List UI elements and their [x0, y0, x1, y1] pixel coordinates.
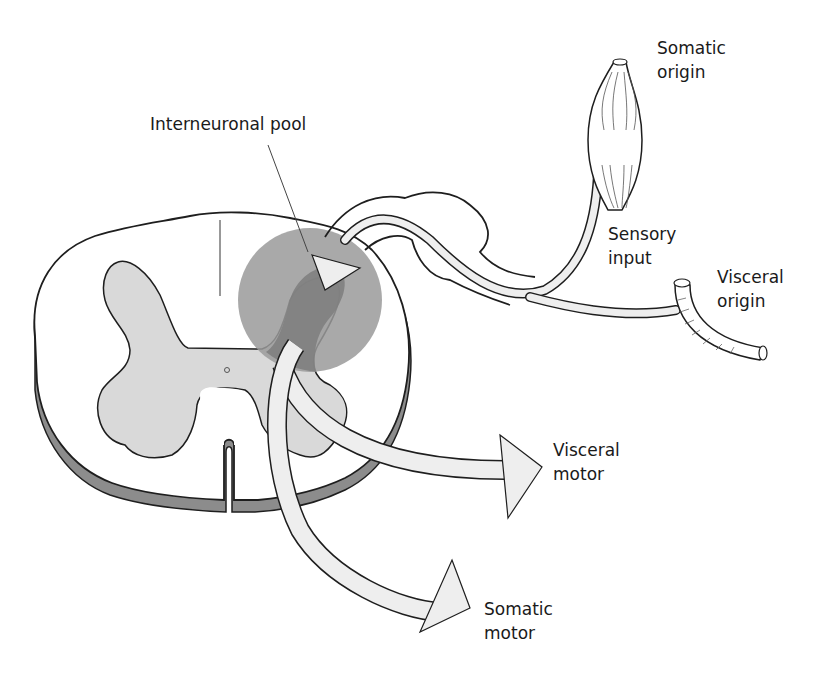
label-line: Visceral	[553, 438, 620, 462]
somatic-origin-muscle	[588, 59, 642, 210]
label-line: motor	[553, 462, 620, 486]
diagram-graphics	[0, 0, 821, 677]
label-line: motor	[484, 621, 553, 645]
label-line: Somatic	[484, 597, 553, 621]
label-somatic-motor: Somatic motor	[484, 597, 553, 645]
spinal-reflex-diagram: Interneuronal pool Somatic origin Sensor…	[0, 0, 821, 677]
label-visceral-origin: Visceral origin	[717, 265, 784, 313]
label-visceral-motor: Visceral motor	[553, 438, 620, 486]
label-text: Interneuronal pool	[150, 112, 306, 136]
label-line: Sensory	[608, 222, 676, 246]
label-line: origin	[657, 60, 726, 84]
label-line: Somatic	[657, 36, 726, 60]
label-line: Visceral	[717, 265, 784, 289]
label-line: input	[608, 246, 676, 270]
label-interneuronal-pool: Interneuronal pool	[150, 112, 306, 136]
label-sensory-input: Sensory input	[608, 222, 676, 270]
label-somatic-origin: Somatic origin	[657, 36, 726, 84]
label-line: origin	[717, 289, 784, 313]
